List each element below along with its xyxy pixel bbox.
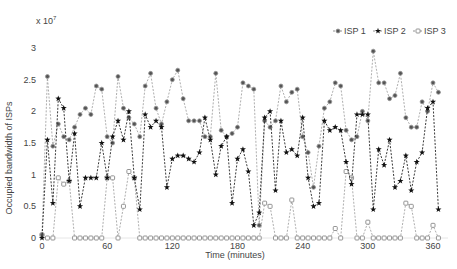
y-multiplier: x 107 <box>36 15 57 26</box>
y-tick-label: 1.5 <box>23 138 36 148</box>
y-tick-label: 3 <box>31 43 36 53</box>
legend-label: ISP 3 <box>424 26 446 36</box>
y-axis-label: Occupied bandwidth of ISPs <box>4 101 14 215</box>
legend-item: ISP 1 <box>333 26 366 36</box>
line-chart: x 107 00.511.522.53 060120180240300360 T… <box>0 0 457 269</box>
svg-text:x 107: x 107 <box>36 15 57 26</box>
legend-item: ISP 3 <box>413 26 446 36</box>
y-tick-label: 0.5 <box>23 201 36 211</box>
x-tick-label: 0 <box>39 241 44 251</box>
y-axis-ticks: 00.511.522.53 <box>23 43 36 243</box>
series-group <box>39 49 442 240</box>
legend: ISP 1ISP 2ISP 3 <box>333 26 446 36</box>
series-isp-2 <box>39 95 442 240</box>
x-tick-label: 60 <box>102 241 112 251</box>
x-axis-label: Time (minutes) <box>205 250 265 260</box>
x-tick-label: 120 <box>165 241 180 251</box>
x-tick-label: 360 <box>425 241 440 251</box>
x-tick-label: 240 <box>295 241 310 251</box>
y-tick-label: 2.5 <box>23 75 36 85</box>
y-tick-label: 2 <box>31 106 36 116</box>
y-tick-label: 0 <box>31 233 36 243</box>
legend-label: ISP 1 <box>344 26 366 36</box>
series-isp-3 <box>40 170 440 241</box>
y-tick-label: 1 <box>31 170 36 180</box>
legend-item: ISP 2 <box>373 26 406 36</box>
x-tick-label: 300 <box>360 241 375 251</box>
legend-label: ISP 2 <box>384 26 406 36</box>
